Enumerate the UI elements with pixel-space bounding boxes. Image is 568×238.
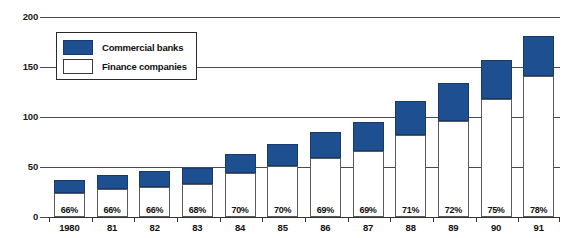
bar-data-label-81: 66% <box>97 205 128 215</box>
legend-entry-commercial-banks: Commercial banks <box>63 39 183 56</box>
bar-data-label-86: 69% <box>310 205 341 215</box>
x-tick-label-81: 81 <box>91 222 134 233</box>
stacked-bar-chart: 050100150200 66%66%66%68%70%70%69%69%71%… <box>0 0 568 238</box>
bar-83[interactable]: 68% <box>182 168 213 217</box>
bar-segment-commercial-banks[interactable] <box>97 175 128 189</box>
bar-data-label-82: 66% <box>139 205 170 215</box>
y-tick-mark-100 <box>40 117 48 118</box>
bar-86[interactable]: 69% <box>310 132 341 217</box>
bar-segment-commercial-banks[interactable] <box>267 144 298 166</box>
legend-label-commercial-banks: Commercial banks <box>102 42 183 53</box>
bar-87[interactable]: 69% <box>353 122 384 217</box>
bar-segment-commercial-banks[interactable] <box>353 122 384 151</box>
bar-segment-commercial-banks[interactable] <box>395 101 426 135</box>
bar-1980[interactable]: 66% <box>54 180 85 217</box>
x-tick-label-83: 83 <box>176 222 219 233</box>
bar-segment-commercial-banks[interactable] <box>481 60 512 99</box>
bar-data-label-89: 72% <box>438 205 469 215</box>
y-tick-label-50: 50 <box>4 161 38 172</box>
x-tick-label-88: 88 <box>389 222 432 233</box>
bar-84[interactable]: 70% <box>225 154 256 217</box>
y-tick-mark-200 <box>40 17 48 18</box>
x-tick-label-87: 87 <box>347 222 390 233</box>
x-tick-label-90: 90 <box>475 222 518 233</box>
bar-81[interactable]: 66% <box>97 175 128 217</box>
bar-segment-commercial-banks[interactable] <box>438 83 469 121</box>
bar-data-label-1980: 66% <box>54 205 85 215</box>
legend-swatch-white-icon <box>63 59 93 74</box>
y-tick-mark-0 <box>40 217 48 218</box>
bar-segment-commercial-banks[interactable] <box>54 180 85 193</box>
bar-data-label-90: 75% <box>481 205 512 215</box>
bar-segment-finance-companies[interactable] <box>481 99 512 217</box>
bar-segment-commercial-banks[interactable] <box>225 154 256 173</box>
legend-label-finance-companies: Finance companies <box>102 61 187 72</box>
y-tick-label-100: 100 <box>4 111 38 122</box>
bar-82[interactable]: 66% <box>139 171 170 217</box>
y-tick-label-200: 200 <box>4 11 38 22</box>
x-tick-label-89: 89 <box>432 222 475 233</box>
y-tick-label-0: 0 <box>4 211 38 222</box>
x-tick-label-1980: 1980 <box>48 222 91 233</box>
bar-segment-commercial-banks[interactable] <box>310 132 341 158</box>
x-tick-label-82: 82 <box>133 222 176 233</box>
bar-85[interactable]: 70% <box>267 144 298 217</box>
legend-swatch-blue-icon <box>63 40 93 55</box>
bar-segment-finance-companies[interactable] <box>438 121 469 217</box>
bar-88[interactable]: 71% <box>395 101 426 217</box>
x-tick-mark-end <box>559 217 560 222</box>
bar-segment-commercial-banks[interactable] <box>139 171 170 187</box>
y-tick-mark-50 <box>40 167 48 168</box>
bar-segment-finance-companies[interactable] <box>523 76 554 217</box>
y-tick-mark-150 <box>40 67 48 68</box>
bar-data-label-83: 68% <box>182 205 213 215</box>
x-tick-label-84: 84 <box>219 222 262 233</box>
bar-segment-commercial-banks[interactable] <box>523 36 554 76</box>
chart-legend: Commercial banks Finance companies <box>56 32 197 80</box>
x-tick-label-86: 86 <box>304 222 347 233</box>
bar-90[interactable]: 75% <box>481 60 512 217</box>
bar-91[interactable]: 78% <box>523 36 554 217</box>
x-tick-label-91: 91 <box>517 222 560 233</box>
bar-data-label-91: 78% <box>523 205 554 215</box>
legend-entry-finance-companies: Finance companies <box>63 58 187 75</box>
bar-data-label-84: 70% <box>225 205 256 215</box>
bar-data-label-85: 70% <box>267 205 298 215</box>
bar-data-label-87: 69% <box>353 205 384 215</box>
bar-89[interactable]: 72% <box>438 83 469 217</box>
y-tick-label-150: 150 <box>4 61 38 72</box>
bar-data-label-88: 71% <box>395 205 426 215</box>
bar-segment-commercial-banks[interactable] <box>182 168 213 184</box>
x-tick-label-85: 85 <box>261 222 304 233</box>
